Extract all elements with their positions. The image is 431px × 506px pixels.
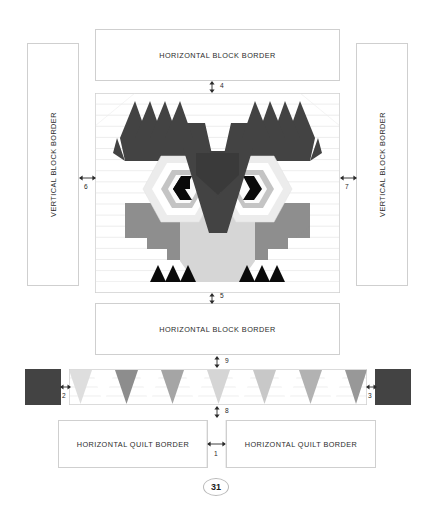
right-horizontal-quilt-border: HORIZONTAL QUILT BORDER xyxy=(226,420,376,468)
quilt-diagram-page: HORIZONTAL BLOCK BORDER VERTICAL BLOCK B… xyxy=(0,0,431,506)
owl-block-bottom-strip xyxy=(96,282,339,292)
page-number-text: 31 xyxy=(211,482,221,492)
triangle-sashing-strip xyxy=(69,369,367,405)
dimension-label-6: 6 xyxy=(84,183,88,190)
triangle-sashing-svg xyxy=(69,369,367,405)
owl-block xyxy=(95,93,340,293)
left-vertical-block-border-label: VERTICAL BLOCK BORDER xyxy=(49,112,58,217)
dimension-label-7: 7 xyxy=(345,183,349,190)
dimension-arrow-9 xyxy=(211,356,223,368)
bottom-horizontal-block-border-label: HORIZONTAL BLOCK BORDER xyxy=(159,325,276,334)
dimension-label-5: 5 xyxy=(220,292,224,299)
right-vertical-block-border-label: VERTICAL BLOCK BORDER xyxy=(378,112,387,217)
owl-block-svg xyxy=(95,93,340,293)
top-horizontal-block-border-label: HORIZONTAL BLOCK BORDER xyxy=(159,51,276,60)
dimension-arrow-4 xyxy=(206,81,218,93)
left-horizontal-quilt-border: HORIZONTAL QUILT BORDER xyxy=(58,420,208,468)
dimension-arrow-5 xyxy=(206,293,218,304)
left-corner-square xyxy=(25,369,61,405)
top-horizontal-block-border: HORIZONTAL BLOCK BORDER xyxy=(95,29,340,81)
dimension-label-9: 9 xyxy=(225,357,229,364)
right-horizontal-quilt-border-label: HORIZONTAL QUILT BORDER xyxy=(245,440,358,449)
bottom-horizontal-block-border: HORIZONTAL BLOCK BORDER xyxy=(95,303,340,355)
dimension-label-4: 4 xyxy=(220,82,224,89)
dimension-label-3: 3 xyxy=(368,392,372,399)
dimension-label-8: 8 xyxy=(225,407,229,414)
dimension-arrow-8 xyxy=(211,406,223,418)
left-vertical-block-border: VERTICAL BLOCK BORDER xyxy=(27,43,79,286)
right-talons xyxy=(239,265,285,282)
left-talons xyxy=(150,265,196,282)
right-vertical-block-border: VERTICAL BLOCK BORDER xyxy=(356,43,408,286)
right-corner-square xyxy=(375,369,411,405)
dimension-label-2: 2 xyxy=(62,392,66,399)
page-number: 31 xyxy=(203,478,229,496)
dimension-1-extension-lines xyxy=(206,420,227,468)
left-horizontal-quilt-border-label: HORIZONTAL QUILT BORDER xyxy=(77,440,190,449)
